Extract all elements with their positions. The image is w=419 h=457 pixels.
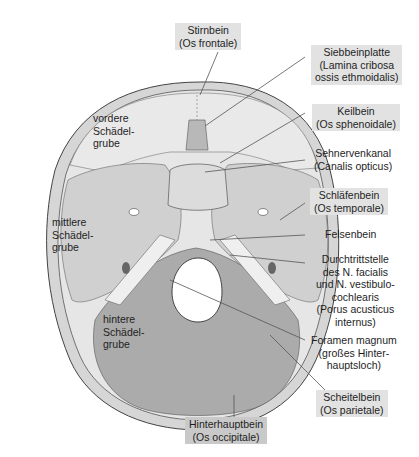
sella-turcica	[168, 164, 228, 210]
label-line: (Os temporale)	[314, 202, 384, 215]
label-line: hauptsloch)	[311, 359, 397, 372]
label-line: Schädel-	[103, 326, 144, 338]
label-line: (Os occipitale)	[189, 431, 263, 444]
foramen-magnum	[172, 258, 222, 322]
label-line: Siebbeinplatte	[315, 46, 398, 59]
label-line: ossis ethmoidalis)	[315, 71, 398, 84]
label-line: (Os frontale)	[179, 37, 237, 50]
label-line: des N. facialis	[316, 266, 395, 279]
callout-frontal: Stirnbein (Os frontale)	[175, 23, 241, 50]
label-middle-fossa: mittlere Schädel- grube	[52, 216, 93, 254]
callout-optic-canal: Sehnervenkanal (Canalis opticus)	[314, 147, 392, 172]
label-line: Schädel-	[52, 229, 93, 241]
label-line: vordere	[93, 112, 129, 124]
label-line: und N. vestibulo-	[316, 278, 395, 291]
label-line: Keilbein	[316, 105, 396, 118]
label-line: grube	[52, 241, 79, 253]
label-line: mittlere	[52, 216, 86, 228]
label-posterior-fossa: hintere Schädel- grube	[103, 313, 144, 351]
label-anterior-fossa: vordere Schädel- grube	[93, 112, 134, 150]
callout-porus: Durchtrittstelle des N. facialis und N. …	[316, 253, 395, 328]
label-line: (Porus acusticus	[316, 303, 395, 316]
label-line: Schläfenbein	[314, 189, 384, 202]
label-line: Schädel-	[93, 125, 134, 137]
label-line: (großes Hinter-	[311, 347, 397, 360]
callout-cribriform: Siebbeinplatte (Lamina cribosa ossis eth…	[311, 45, 402, 85]
callout-temporal: Schläfenbein (Os temporale)	[310, 188, 388, 215]
label-line: hintere	[103, 313, 135, 325]
label-line: grube	[103, 338, 130, 350]
label-line: cochlearis	[316, 291, 395, 304]
label-line: Stirnbein	[179, 24, 237, 37]
label-line: Durchtrittstelle	[316, 253, 395, 266]
callout-occipital: Hinterhauptbein (Os occipitale)	[185, 417, 267, 444]
label-line: Hinterhauptbein	[189, 418, 263, 431]
label-line: (Os sphenoidale)	[316, 118, 396, 131]
callout-petrous: Felsenbein	[325, 228, 376, 241]
label-line: Felsenbein	[325, 228, 376, 241]
label-line: (Os parietale)	[320, 404, 384, 417]
callout-sphenoid: Keilbein (Os sphenoidale)	[312, 104, 400, 131]
label-line: (Lamina cribosa	[315, 59, 398, 72]
label-line: internus)	[316, 316, 395, 329]
label-line: grube	[93, 137, 120, 149]
callout-parietal: Scheitelbein (Os parietale)	[316, 390, 388, 417]
label-line: Sehnervenkanal	[314, 147, 392, 160]
label-line: Scheitelbein	[320, 391, 384, 404]
label-line: Foramen magnum	[311, 334, 397, 347]
cribriform-plate	[186, 120, 208, 150]
label-line: (Canalis opticus)	[314, 160, 392, 173]
callout-foramen-magnum: Foramen magnum (großes Hinter- hauptsloc…	[311, 334, 397, 372]
